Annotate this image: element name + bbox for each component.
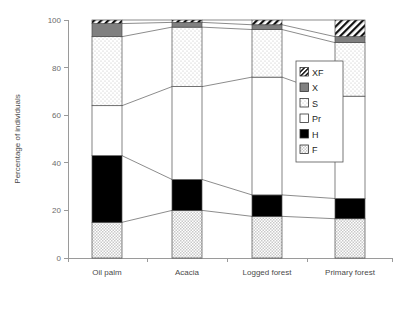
- category-label: Oil palm: [92, 268, 122, 277]
- chart-legend[interactable]: XFXSPrHF: [296, 61, 343, 162]
- legend-label-F[interactable]: F: [312, 145, 318, 155]
- bar-segment-Pr[interactable]: [92, 106, 122, 156]
- segment-connector: [202, 77, 252, 87]
- bar-segment-XF[interactable]: [92, 20, 122, 24]
- bar-segment-F[interactable]: [172, 210, 202, 258]
- segment-connector: [202, 27, 252, 29]
- segment-connector: [202, 179, 252, 194]
- stacked-bar-chart: 020406080100 Oil palmAcaciaLogged forest…: [0, 0, 405, 313]
- legend-label-H[interactable]: H: [312, 130, 319, 140]
- bar-segment-XF[interactable]: [252, 20, 282, 25]
- segment-connector: [282, 25, 335, 37]
- category-labels: Oil palmAcaciaLogged forestPrimary fores…: [92, 268, 375, 277]
- segment-connector: [122, 210, 172, 222]
- bar-oil-palm[interactable]: [92, 20, 122, 258]
- bar-logged-forest[interactable]: [252, 20, 282, 258]
- segment-connector: [122, 156, 172, 180]
- y-tick-label: 40: [52, 159, 61, 168]
- bar-segment-X[interactable]: [172, 22, 202, 27]
- y-tick-label: 60: [52, 111, 61, 120]
- y-tick-label: 100: [48, 16, 62, 25]
- bar-segment-F[interactable]: [252, 216, 282, 258]
- y-axis-title: Percentage of individuals: [13, 94, 22, 183]
- bar-segment-XF[interactable]: [335, 20, 365, 37]
- bar-segment-F[interactable]: [92, 222, 122, 258]
- legend-swatch-S: [300, 99, 309, 108]
- legend-label-X[interactable]: X: [312, 83, 318, 93]
- bar-segment-H[interactable]: [92, 156, 122, 223]
- bar-segment-X[interactable]: [252, 25, 282, 30]
- segment-connector: [202, 22, 252, 24]
- bar-segment-H[interactable]: [335, 199, 365, 219]
- bar-segment-S[interactable]: [252, 30, 282, 78]
- bar-segment-S[interactable]: [92, 37, 122, 106]
- y-tick-label: 80: [52, 64, 61, 73]
- segment-connector: [282, 30, 335, 43]
- segment-connector: [282, 216, 335, 218]
- y-tick-label: 20: [52, 206, 61, 215]
- bar-acacia[interactable]: [172, 20, 202, 258]
- bar-segment-X[interactable]: [92, 24, 122, 37]
- bar-segment-XF[interactable]: [172, 20, 202, 22]
- bar-segment-S[interactable]: [172, 27, 202, 87]
- category-label: Primary forest: [325, 268, 376, 277]
- segment-connector: [122, 87, 172, 106]
- segment-connector: [122, 22, 172, 23]
- legend-label-Pr[interactable]: Pr: [312, 114, 321, 124]
- y-tick-label: 0: [57, 254, 62, 263]
- legend-swatch-X: [300, 83, 309, 92]
- chart-canvas: 020406080100 Oil palmAcaciaLogged forest…: [0, 0, 405, 313]
- y-axis-title-group: Percentage of individuals: [13, 94, 22, 183]
- bar-segment-H[interactable]: [252, 195, 282, 216]
- legend-swatch-F: [300, 145, 309, 154]
- legend-label-XF[interactable]: XF: [312, 68, 324, 78]
- category-label: Acacia: [175, 268, 200, 277]
- bar-segment-X[interactable]: [335, 37, 365, 43]
- segment-connector: [282, 195, 335, 199]
- bar-segment-Pr[interactable]: [252, 77, 282, 195]
- segment-connector: [122, 27, 172, 37]
- legend-label-S[interactable]: S: [312, 99, 318, 109]
- legend-swatch-XF: [300, 68, 309, 77]
- bar-segment-F[interactable]: [335, 219, 365, 258]
- legend-swatch-H: [300, 130, 309, 139]
- bar-segment-H[interactable]: [172, 179, 202, 210]
- bar-segment-Pr[interactable]: [172, 87, 202, 180]
- segment-connector: [202, 210, 252, 216]
- legend-swatch-Pr: [300, 114, 309, 123]
- category-label: Logged forest: [243, 268, 293, 277]
